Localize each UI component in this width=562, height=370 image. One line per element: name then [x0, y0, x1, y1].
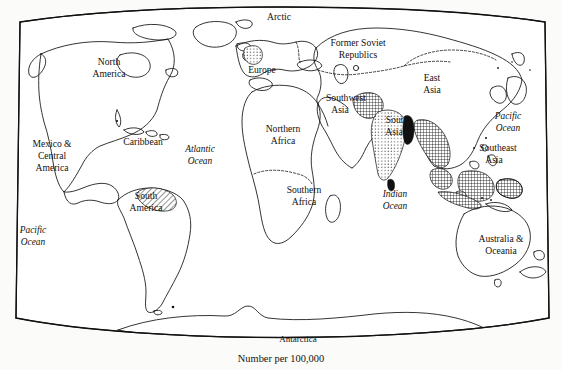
- label-indian-ocean-2: Ocean: [383, 201, 408, 211]
- label-arctic: Arctic: [267, 11, 291, 22]
- label-antarctica: Antarctica: [279, 334, 316, 344]
- label-southeast-asia-2: Asia: [485, 154, 503, 165]
- label-australia-oceania-2: Oceania: [485, 245, 517, 256]
- label-southern-africa-2: Africa: [292, 196, 317, 207]
- label-former-soviet-1: Former Soviet: [330, 37, 385, 48]
- label-mexico-central-1: Mexico &: [32, 138, 72, 149]
- label-south-america-1: South: [135, 190, 158, 201]
- world-map-figure: Arctic North America Europe Former Sovie…: [0, 0, 562, 370]
- label-caribbean: Caribbean: [123, 136, 163, 147]
- label-europe: Europe: [248, 64, 276, 75]
- label-pacific-ocean-east-1: Pacific: [494, 111, 522, 121]
- figure-caption: Number per 100,000: [238, 353, 324, 364]
- label-southwest-asia-2: Asia: [331, 104, 349, 115]
- label-south-america-2: America: [129, 202, 163, 213]
- label-mexico-central-3: America: [35, 162, 69, 173]
- label-northern-africa-1: Northern: [266, 123, 301, 134]
- label-southwest-asia-1: Southwest: [326, 92, 366, 103]
- europe-shaded-region: [244, 46, 263, 65]
- label-pacific-ocean-west-1: Pacific: [19, 225, 47, 235]
- label-south-asia-2: Asia: [385, 126, 403, 137]
- world-map-svg: Arctic North America Europe Former Sovie…: [0, 0, 562, 370]
- label-indian-ocean-1: Indian: [382, 189, 408, 199]
- label-former-soviet-2: Republics: [339, 49, 378, 60]
- label-south-asia-1: South: [386, 114, 409, 125]
- label-north-america-2: America: [92, 68, 126, 79]
- label-southern-africa-1: Southern: [287, 184, 322, 195]
- label-southeast-asia-1: Southeast: [479, 142, 517, 153]
- label-pacific-ocean-west-2: Ocean: [21, 237, 46, 247]
- label-pacific-ocean-east-2: Ocean: [496, 123, 521, 133]
- label-northern-africa-2: Africa: [271, 135, 296, 146]
- label-atlantic-ocean-1: Atlantic: [184, 144, 216, 154]
- label-australia-oceania-1: Australia &: [478, 233, 524, 244]
- label-atlantic-ocean-2: Ocean: [188, 156, 213, 166]
- label-north-america-1: North: [98, 56, 121, 67]
- label-east-asia-2: Asia: [423, 84, 441, 95]
- label-mexico-central-2: Central: [38, 150, 67, 161]
- label-east-asia-1: East: [424, 72, 441, 83]
